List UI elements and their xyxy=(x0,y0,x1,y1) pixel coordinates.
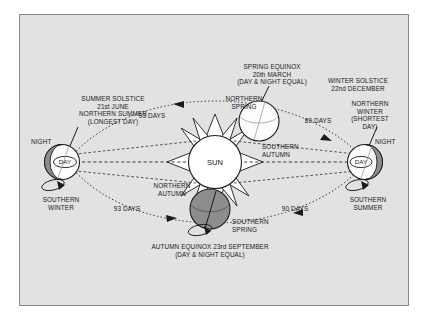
spring-equinox-line1: SPRING EQUINOX xyxy=(237,63,307,71)
southern-spring-line1: SOUTHERN xyxy=(232,218,269,226)
sunlight-ray-lower-right xyxy=(234,171,356,183)
summer-solstice-line4: (LONGEST DAY) xyxy=(79,118,147,126)
seasons-diagram-figure: SUN DAY DAY SUMMER SOLSTICE 21st JUNE NO… xyxy=(19,14,409,306)
southern-winter-line2: WINTER xyxy=(43,204,80,212)
winter-solstice-line1: WINTER SOLSTICE xyxy=(328,77,388,85)
northern-autumn-line1: NORTHERN xyxy=(154,182,191,190)
label-autumn-equinox: AUTUMN EQUINOX 23rd SEPTEMBER (DAY & NIG… xyxy=(151,243,268,258)
spring-equinox-line3: (DAY & NIGHT EQUAL) xyxy=(237,78,307,86)
southern-summer-line2: SUMMER xyxy=(350,204,387,212)
southern-summer-line1: SOUTHERN xyxy=(350,196,387,204)
sun-label: SUN xyxy=(207,158,223,167)
orbit-arrow-top-left xyxy=(173,101,184,108)
label-winter-solstice: WINTER SOLSTICE 22nd DECEMBER xyxy=(328,77,388,92)
label-northern-spring: NORTHERN SPRING xyxy=(226,95,263,110)
right-globe-day-label: DAY xyxy=(355,158,367,165)
southern-autumn-line1: SOUTHERN xyxy=(262,143,299,151)
northern-winter-line4: DAY) xyxy=(351,123,389,131)
southern-autumn-line2: AUTUMN xyxy=(262,151,299,159)
label-northern-winter: NORTHERN WINTER (SHORTEST DAY) xyxy=(351,100,389,130)
label-summer-solstice: SUMMER SOLSTICE 21st JUNE NORTHERN SUMME… xyxy=(79,95,147,125)
right-globe-night-label: NIGHT xyxy=(375,138,395,146)
southern-winter-line1: SOUTHERN xyxy=(43,196,80,204)
diagram-canvas: SUN DAY DAY xyxy=(20,15,410,307)
northern-spring-line1: NORTHERN xyxy=(226,95,263,103)
label-northern-autumn: NORTHERN AUTUMN xyxy=(154,182,191,197)
duration-top-right: 89 DAYS xyxy=(305,117,332,125)
label-southern-spring: SOUTHERN SPRING xyxy=(232,218,269,233)
orbit-arrow-bottom-left xyxy=(166,215,177,222)
summer-solstice-line3: NORTHERN SUMMER xyxy=(79,110,147,118)
left-globe-night-label: NIGHT xyxy=(31,138,51,146)
summer-solstice-line2: 21st JUNE xyxy=(79,103,147,111)
left-globe-day-label: DAY xyxy=(59,158,71,165)
label-southern-summer: SOUTHERN SUMMER xyxy=(350,196,387,211)
northern-spring-line2: SPRING xyxy=(226,103,263,111)
duration-bottom-right: 90 DAYS xyxy=(282,205,309,213)
winter-solstice-line2: 22nd DECEMBER xyxy=(328,85,388,93)
northern-winter-line2: WINTER xyxy=(351,108,389,116)
northern-winter-line1: NORTHERN xyxy=(351,100,389,108)
sunlight-ray-upper-left xyxy=(76,141,196,154)
orbit-arrow-top-right xyxy=(320,134,332,141)
duration-bottom-left: 93 DAYS xyxy=(114,205,141,213)
northern-winter-line3: (SHORTEST xyxy=(351,115,389,123)
label-southern-autumn: SOUTHERN AUTUMN xyxy=(262,143,299,158)
label-spring-equinox: SPRING EQUINOX 20th MARCH (DAY & NIGHT E… xyxy=(237,63,307,86)
autumn-equinox-line1: AUTUMN EQUINOX 23rd SEPTEMBER xyxy=(151,243,268,251)
label-southern-winter: SOUTHERN WINTER xyxy=(43,196,80,211)
summer-solstice-line1: SUMMER SOLSTICE xyxy=(79,95,147,103)
autumn-equinox-line2: (DAY & NIGHT EQUAL) xyxy=(151,251,268,259)
spring-equinox-line2: 20th MARCH xyxy=(237,71,307,79)
earth-globe-autumn-equinox xyxy=(187,189,230,238)
northern-autumn-line2: AUTUMN xyxy=(154,190,191,198)
duration-top-left: 93 DAYS xyxy=(139,112,166,120)
southern-spring-line2: SPRING xyxy=(232,226,269,234)
